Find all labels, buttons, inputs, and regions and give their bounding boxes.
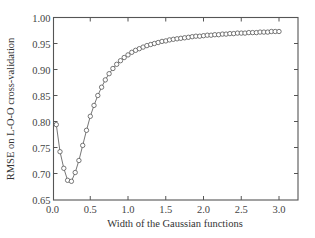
plot-frame xyxy=(54,18,299,201)
y-tick-label: 0.90 xyxy=(32,65,50,76)
data-point-marker xyxy=(84,128,88,132)
y-tick-label: 0.70 xyxy=(32,169,50,180)
data-series-rmse xyxy=(54,29,281,183)
data-point-marker xyxy=(62,166,66,170)
data-point-marker xyxy=(118,59,122,63)
x-tick-label: 1.0 xyxy=(121,204,134,215)
data-point-marker xyxy=(92,103,96,107)
x-axis-title: Width of the Gaussian functions xyxy=(107,218,242,229)
y-tick-label: 0.65 xyxy=(32,195,50,206)
data-point-marker xyxy=(111,66,115,70)
x-tick-label: 0.0 xyxy=(46,204,59,215)
data-point-marker xyxy=(69,179,73,183)
data-point-marker xyxy=(96,93,100,97)
data-point-marker xyxy=(88,114,92,118)
series-line xyxy=(56,32,279,182)
data-point-marker xyxy=(115,62,119,66)
y-tick-label: 0.95 xyxy=(32,39,50,50)
x-tick-label: 0.5 xyxy=(84,204,97,215)
y-tick-label: 0.75 xyxy=(32,143,50,154)
data-point-marker xyxy=(107,72,111,76)
x-tick-label: 2.0 xyxy=(197,204,210,215)
x-tick-label: 1.5 xyxy=(159,204,172,215)
y-tick-label: 0.80 xyxy=(32,117,50,128)
x-tick-label: 2.5 xyxy=(235,204,248,215)
data-point-marker xyxy=(77,158,81,162)
x-tick-label: 3.0 xyxy=(272,204,285,215)
x-axis-ticks: 0.00.51.01.52.02.53.0 xyxy=(46,18,286,216)
data-point-marker xyxy=(99,85,103,89)
data-point-marker xyxy=(103,78,107,82)
axes xyxy=(54,18,299,201)
data-point-marker xyxy=(58,150,62,154)
data-point-marker xyxy=(73,170,77,174)
data-point-marker xyxy=(54,122,58,126)
data-point-marker xyxy=(277,29,281,33)
y-tick-label: 1.00 xyxy=(32,13,50,24)
data-point-marker xyxy=(81,143,85,147)
y-axis-title: RMSE on L-O-O cross-validation xyxy=(5,37,16,180)
rmse-line-chart: 0.00.51.01.52.02.53.0 0.650.700.750.800.… xyxy=(0,0,315,238)
y-tick-label: 0.85 xyxy=(32,91,50,102)
